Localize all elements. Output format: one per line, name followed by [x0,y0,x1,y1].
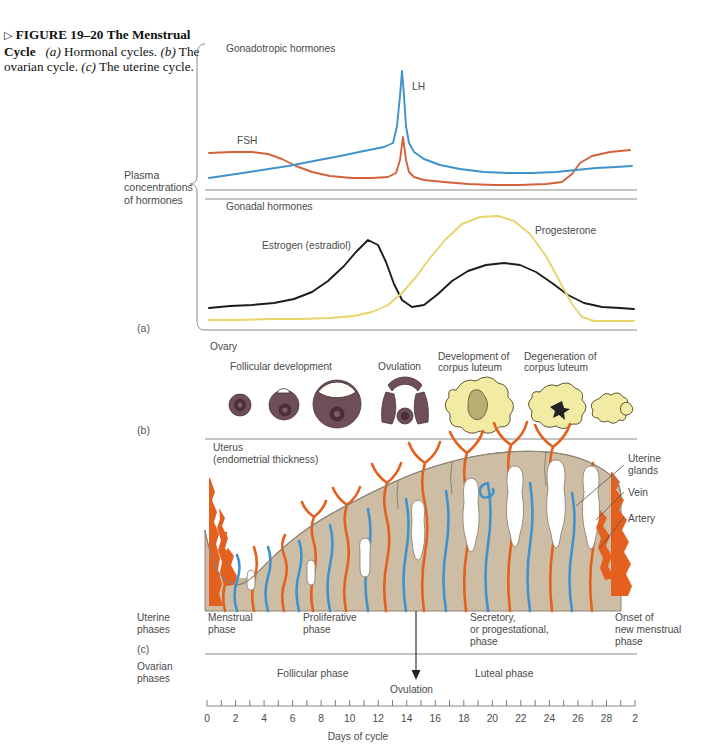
axis-tick-label: 14 [401,713,413,724]
fsh-label-text: FSH [237,135,257,146]
ovarian-phases-heading-text: Ovarian [137,661,173,672]
corpus-luteum-degeneration-graphic-1 [529,383,587,429]
gonadotropic-subpanel: FSH LH Gonadotropic hormones [205,43,637,190]
degeneration-cl-label-text: Degeneration of [524,351,597,362]
ovulation-stage-label-text: Ovulation [378,361,421,372]
lh-label-text: LH [412,81,425,92]
ovary-panel: Ovary Follicular development Ovulation D… [210,341,633,433]
uterus-subtitle-text: (endometrial thickness) [213,454,318,465]
development-cl-label-text: Development of [438,351,510,362]
axis-tick-label: 18 [458,713,470,724]
axis-tick-label: 10 [344,713,356,724]
secretory-phase-text: Secretory, [470,612,516,623]
axis-tick-label: 16 [430,713,442,724]
axis-tick-label: 4 [261,713,267,724]
follicular-phase-text: Follicular phase [277,668,349,679]
follicle-stage-2 [269,389,299,420]
axis-tick-label: 8 [318,713,324,724]
corpus-albicans-graphic [591,393,633,423]
axis-tick-label: 0 [204,713,210,724]
onset-phase-text2: new menstrual [615,624,681,635]
plasma-bracket-label: Plasma concentrations of hormones [124,169,194,206]
axis-tick-label: 22 [515,713,527,724]
axis-ticks [207,700,635,706]
panel-label-c: (c) [137,643,149,655]
ovary-title-text: Ovary [210,341,238,352]
onset-phase-text3: phase [615,636,643,647]
progesterone-label-text: Progesterone [535,225,596,236]
axis-tick-label: 26 [572,713,584,724]
estrogen-label-text: Estrogen (estradiol) [262,240,351,251]
vein-label-text: Vein [628,487,648,498]
ovulation-arrow [412,611,421,680]
axis-tick-label: 12 [373,713,385,724]
menstrual-cycle-figure: FSH LH Gonadotropic hormones Gonadal hor… [0,0,715,754]
artery-label-text: Artery [628,513,656,524]
uterus-panel: Uterus (endometrial thickness) [205,422,661,611]
gonadotropic-title-text: Gonadotropic hormones [226,43,335,54]
phase-section: Uterine phases Menstrual phase Prolifera… [137,611,681,695]
panel-label-a: (a) [137,322,150,334]
axis-tick-label: 6 [290,713,296,724]
fsh-curve [209,137,630,185]
ovarian-phases-heading-text2: phases [137,673,170,684]
proliferative-phase-text: Proliferative [303,612,357,623]
proliferative-phase-text2: phase [303,624,331,635]
gonadal-subpanel: Gonadal hormones Estrogen (estradiol) Pr… [205,199,637,330]
onset-phase-text: Onset of [615,612,654,623]
menstrual-phase-text2: phase [208,624,236,635]
degeneration-cl-label-text2: corpus luteum [524,362,588,373]
panel-label-b: (b) [137,424,150,436]
corpus-luteum-development-graphic [445,377,513,433]
uterus-title-text: Uterus [213,442,243,453]
development-cl-label-text2: corpus luteum [438,362,502,373]
axis-tick-label: 24 [544,713,556,724]
ovulation-stage-graphic [382,377,429,424]
gonadal-title-text: Gonadal hormones [226,201,313,212]
follicle-stage-1 [229,394,251,416]
uterine-glands-label-text2: glands [628,465,658,476]
uterine-phases-heading-text: Uterine [137,612,170,623]
secretory-phase-text3: phase [470,636,498,647]
ovulation-marker-text: Ovulation [390,684,433,695]
axis-tick-label: 2 [233,713,239,724]
uterine-glands-label-text: Uterine [628,453,661,464]
axis-title-text: Days of cycle [328,731,389,742]
menstrual-phase-text: Menstrual [208,612,253,623]
luteal-phase-text: Luteal phase [475,668,534,679]
secretory-phase-text2: or progestational, [470,624,549,635]
follicle-stage-3 [313,380,361,428]
axis-tick-label: 20 [487,713,499,724]
follicular-development-label-text: Follicular development [230,361,332,372]
days-axis: 02468101214161820222426282 Days of cycle [204,700,638,742]
uterine-phases-heading-text2: phases [137,624,170,635]
axis-tick-labels: 02468101214161820222426282 [204,713,638,724]
axis-tick-label: 2 [632,713,638,724]
axis-tick-label: 28 [601,713,613,724]
